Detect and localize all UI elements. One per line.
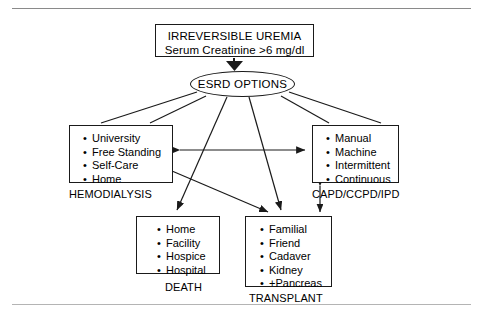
list-item: •Hospital	[157, 264, 219, 278]
list-item-label: Cadaver	[269, 250, 311, 262]
node-death: •Home •Facility •Hospice •Hospital	[136, 216, 220, 274]
list-item-label: Home	[166, 223, 195, 235]
arrow-hemodialysis-transplant-bidirectional	[172, 171, 268, 212]
arrow-esrd-to-hemodialysis	[101, 92, 206, 123]
list-item: •Cadaver	[260, 250, 331, 264]
bottom-divider-rule	[12, 304, 471, 305]
caption-death: DEATH	[165, 281, 202, 293]
list-item: •Familial	[260, 223, 331, 237]
bullet-icon: •	[157, 237, 166, 251]
bullet-icon: •	[326, 173, 335, 187]
node-irreversible-uremia: IRREVERSIBLE UREMIA Serum Creatinine >6 …	[155, 24, 314, 57]
bullet-icon: •	[157, 250, 166, 264]
arrow-esrd-to-capd	[281, 92, 381, 123]
bullet-icon: •	[83, 132, 92, 146]
list-item: •Friend	[260, 237, 331, 251]
arrow-uremia-to-esrd	[226, 58, 243, 71]
list-item-label: Kidney	[269, 264, 303, 276]
list-item: •Home	[157, 223, 219, 237]
list-item: •Free Standing	[83, 146, 172, 160]
list-item-label: University	[92, 132, 140, 144]
bullet-icon: •	[260, 264, 269, 278]
caption-transplant: TRANSPLANT	[249, 292, 323, 304]
list-item-label: Machine	[335, 146, 377, 158]
list-item: •Self-Care	[83, 159, 172, 173]
list-item: •Hospice	[157, 250, 219, 264]
bullet-icon: •	[326, 132, 335, 146]
list-item: •Home	[83, 173, 172, 187]
bullet-icon: •	[260, 237, 269, 251]
list-item-label: Free Standing	[92, 146, 161, 158]
bullet-icon: •	[157, 264, 166, 278]
diagram-canvas: IRREVERSIBLE UREMIA Serum Creatinine >6 …	[0, 0, 483, 314]
list-item: •Manual	[326, 132, 398, 146]
bullet-icon: •	[83, 173, 92, 187]
list-item: •Continuous	[326, 173, 398, 187]
arrow-esrd-to-death	[177, 97, 227, 210]
transplant-list: •Familial •Friend •Cadaver •Kidney •+Pan…	[260, 223, 331, 291]
list-item: •Kidney	[260, 264, 331, 278]
death-list: •Home •Facility •Hospice •Hospital	[157, 223, 219, 277]
list-item: •+Pancreas	[260, 277, 331, 291]
list-item-label: Continuous	[335, 173, 391, 185]
capd-list: •Manual •Machine •Intermittent •Continuo…	[326, 132, 398, 186]
list-item: •Facility	[157, 237, 219, 251]
top-divider-rule	[12, 8, 471, 9]
caption-capd: CAPD/CCPD/IPD	[312, 188, 399, 200]
node-transplant: •Familial •Friend •Cadaver •Kidney •+Pan…	[245, 216, 332, 287]
bullet-icon: •	[326, 146, 335, 160]
list-item-label: Self-Care	[92, 159, 138, 171]
bullet-icon: •	[157, 223, 166, 237]
bullet-icon: •	[260, 250, 269, 264]
list-item-label: Home	[92, 173, 121, 185]
bullet-icon: •	[83, 159, 92, 173]
uremia-title: IRREVERSIBLE UREMIA	[156, 29, 313, 43]
esrd-options-label: ESRD OPTIONS	[198, 78, 287, 90]
list-item-label: Hospice	[166, 250, 206, 262]
list-item: •Intermittent	[326, 159, 398, 173]
list-item-label: Hospital	[166, 264, 206, 276]
list-item-label: +Pancreas	[269, 277, 322, 289]
list-item: •University	[83, 132, 172, 146]
hemodialysis-list: •University •Free Standing •Self-Care •H…	[83, 132, 172, 186]
list-item-label: Familial	[269, 223, 307, 235]
list-item-label: Intermittent	[335, 159, 390, 171]
bullet-icon: •	[83, 146, 92, 160]
caption-hemodialysis: HEMODIALYSIS	[69, 188, 152, 200]
bullet-icon: •	[260, 223, 269, 237]
list-item: •Machine	[326, 146, 398, 160]
node-hemodialysis: •University •Free Standing •Self-Care •H…	[69, 125, 173, 183]
node-esrd-options: ESRD OPTIONS	[190, 71, 295, 97]
list-item-label: Friend	[269, 237, 300, 249]
node-capd: •Manual •Machine •Intermittent •Continuo…	[312, 125, 399, 183]
uremia-subtitle: Serum Creatinine >6 mg/dl	[156, 43, 313, 57]
arrow-esrd-to-transplant	[249, 97, 281, 210]
bullet-icon: •	[326, 159, 335, 173]
list-item-label: Manual	[335, 132, 371, 144]
bullet-icon: •	[260, 277, 269, 291]
list-item-label: Facility	[166, 237, 200, 249]
